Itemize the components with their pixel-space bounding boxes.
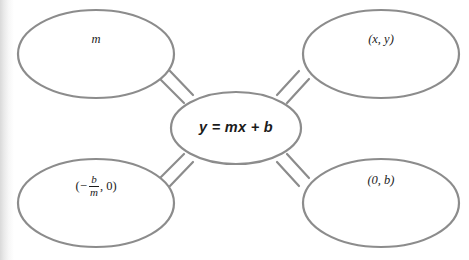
connector-top-right — [277, 71, 309, 103]
fraction-numerator: b — [89, 174, 99, 186]
x-intercept-fraction: b m — [89, 174, 99, 199]
node-slope-label: m — [46, 33, 146, 46]
x-intercept-tail: , 0) — [100, 180, 117, 193]
concept-map-diagram: m (x, y) (− b m , 0) (0, b) y = mx + b — [0, 0, 469, 260]
node-slope-ellipse[interactable] — [18, 10, 174, 98]
node-point-ellipse[interactable] — [303, 10, 459, 98]
x-intercept-minus-sign: − — [80, 180, 88, 193]
center-node-label: y = mx + b — [176, 120, 296, 135]
node-point-label: (x, y) — [331, 33, 431, 46]
connector-bottom-right — [277, 154, 309, 186]
node-x-intercept-label: (− b m , 0) — [46, 174, 146, 199]
node-y-intercept-label: (0, b) — [331, 174, 431, 187]
fraction-denominator: m — [89, 187, 99, 199]
